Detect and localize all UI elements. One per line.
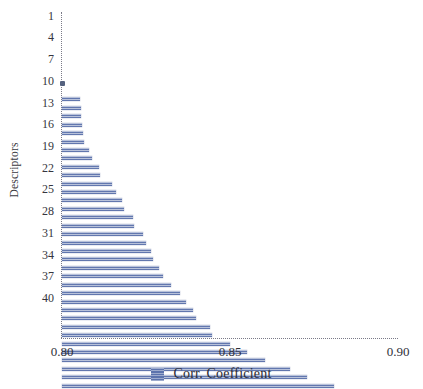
y-tick-label: 4 xyxy=(48,31,54,43)
bar xyxy=(62,173,100,177)
legend-swatch-icon xyxy=(151,368,164,381)
y-tick-label: 37 xyxy=(42,270,54,282)
bar xyxy=(62,316,196,320)
bar-row xyxy=(62,257,398,264)
bar xyxy=(62,148,89,152)
bar-row xyxy=(62,325,398,332)
bar-row xyxy=(62,249,398,256)
bar-row xyxy=(62,224,398,231)
x-axis-line xyxy=(61,338,398,339)
y-tick-label: 40 xyxy=(42,292,54,304)
bar-row xyxy=(62,47,398,54)
bar-row xyxy=(62,81,398,88)
bar-row xyxy=(62,114,398,121)
bar-row xyxy=(62,22,398,29)
bar-row xyxy=(62,173,398,180)
bar-row xyxy=(62,283,398,290)
bar-row xyxy=(62,64,398,71)
y-tick-label: 22 xyxy=(42,162,54,174)
bar xyxy=(62,156,92,160)
bar xyxy=(62,333,212,337)
x-tick-label: 0.80 xyxy=(51,344,74,359)
bar xyxy=(62,266,159,270)
y-tick-label: 19 xyxy=(42,140,54,152)
bar xyxy=(62,257,153,261)
bar-row xyxy=(62,165,398,172)
bar xyxy=(62,207,124,211)
bar-row xyxy=(62,300,398,307)
y-tick-label: 16 xyxy=(42,118,54,130)
bar-row xyxy=(62,241,398,248)
bar xyxy=(62,325,210,329)
bar-row xyxy=(62,291,398,298)
bar-row xyxy=(62,30,398,37)
bar xyxy=(62,215,133,219)
legend-label: Corr. Coefficient xyxy=(173,366,271,382)
bar xyxy=(62,384,334,388)
bar-row xyxy=(62,198,398,205)
bar-row xyxy=(62,308,398,315)
bar-row xyxy=(62,333,398,340)
bar-series xyxy=(62,12,398,338)
y-tick-label: 1 xyxy=(48,10,54,22)
bar xyxy=(62,232,143,236)
y-tick-label: 13 xyxy=(42,97,54,109)
bar xyxy=(62,114,81,118)
bar xyxy=(62,190,116,194)
bar-chart: Descriptors 1471013161922252831343740 0.… xyxy=(0,0,423,389)
bar-row xyxy=(62,182,398,189)
bar xyxy=(62,106,81,110)
bar-row xyxy=(62,148,398,155)
y-axis-title-text: Descriptors xyxy=(8,142,20,197)
bar xyxy=(62,241,146,245)
bar-row xyxy=(62,384,398,389)
bar-row xyxy=(62,140,398,147)
bar-row xyxy=(62,123,398,130)
x-tick-label: 0.90 xyxy=(387,344,410,359)
y-tick-label: 10 xyxy=(42,75,54,87)
bar xyxy=(62,97,80,101)
bar-row xyxy=(62,215,398,222)
y-tick-label: 25 xyxy=(42,183,54,195)
y-tick-label: 31 xyxy=(42,227,54,239)
plot-area xyxy=(62,12,398,338)
bar-row xyxy=(62,72,398,79)
y-axis-title: Descriptors xyxy=(2,0,26,340)
bar-row xyxy=(62,156,398,163)
y-axis-tick-labels: 1471013161922252831343740 xyxy=(24,12,58,338)
bar xyxy=(62,283,171,287)
bar-row xyxy=(62,207,398,214)
bar-row xyxy=(62,232,398,239)
bar xyxy=(62,291,180,295)
y-tick-label: 34 xyxy=(42,249,54,261)
bar xyxy=(62,165,99,169)
bar xyxy=(62,249,151,253)
bar xyxy=(62,300,186,304)
bar-row xyxy=(62,266,398,273)
bar-row xyxy=(62,89,398,96)
x-axis-tick-labels: 0.800.850.90 xyxy=(0,344,423,364)
bar xyxy=(62,198,122,202)
bar xyxy=(62,274,163,278)
y-tick-label: 28 xyxy=(42,205,54,217)
axis-origin-marker xyxy=(60,81,65,86)
bar-row xyxy=(62,38,398,45)
chart-legend: Corr. Coefficient xyxy=(0,366,423,382)
bar-row xyxy=(62,131,398,138)
bar-row xyxy=(62,106,398,113)
bar-row xyxy=(62,13,398,20)
bar xyxy=(62,140,84,144)
bar-row xyxy=(62,316,398,323)
bar-row xyxy=(62,97,398,104)
bar xyxy=(62,308,193,312)
y-tick-label: 7 xyxy=(48,53,54,65)
bar xyxy=(62,131,83,135)
x-tick-label: 0.85 xyxy=(219,344,242,359)
bar xyxy=(62,182,112,186)
bar-row xyxy=(62,55,398,62)
bar xyxy=(62,123,82,127)
bar-row xyxy=(62,190,398,197)
bar-row xyxy=(62,274,398,281)
bar xyxy=(62,224,134,228)
